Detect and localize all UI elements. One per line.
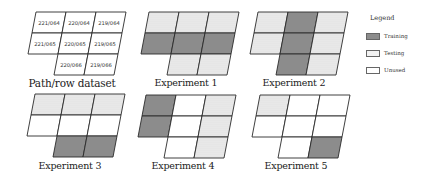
grid-cell-testing: [145, 12, 179, 33]
path-row-label: 221/065: [34, 41, 56, 47]
path-row-label: 220/066: [60, 62, 82, 68]
path-row-label: 221/064: [38, 20, 60, 26]
grid-cell-testing: [175, 12, 209, 33]
legend-label: Training: [384, 33, 408, 39]
unused-swatch-icon: [366, 67, 380, 74]
grid-diagram: [246, 12, 346, 82]
grid-cell-unused: [57, 115, 91, 136]
grid-cell-training: [201, 33, 235, 54]
grid-cell-training: [138, 116, 172, 137]
grid-cell-unused: [27, 115, 61, 136]
legend-label: Testing: [384, 50, 404, 56]
grid-cell-unused: [87, 115, 121, 136]
training-swatch-icon: [366, 33, 380, 40]
grid-diagram: [248, 95, 348, 165]
grid-cell-unused: [252, 116, 286, 137]
caption-path-row-dataset: Path/row dataset: [28, 77, 115, 89]
path-row-label: 219/064: [98, 20, 120, 26]
grid-cell-unused: [168, 116, 202, 137]
grid-diagram: [134, 95, 234, 165]
caption-experiment-1: Experiment 1: [155, 77, 218, 88]
grid-cell-training: [83, 136, 117, 157]
grid-cell-unused: [172, 95, 206, 116]
grid-cell-testing: [310, 33, 344, 54]
grid-cell-training: [280, 33, 314, 54]
testing-swatch-icon: [366, 50, 380, 57]
caption-experiment-5: Experiment 5: [265, 160, 328, 171]
grid-cell-unused: [286, 95, 320, 116]
grid-cell-training: [276, 54, 310, 75]
path-row-label: 220/065: [64, 41, 86, 47]
caption-experiment-4: Experiment 4: [152, 160, 215, 171]
legend-item-unused: Unused: [366, 67, 422, 75]
grid-cell-unused: [282, 116, 316, 137]
grid-cell-testing: [167, 54, 201, 75]
grid-diagram: [137, 12, 237, 82]
path-row-label: 220/064: [68, 20, 90, 26]
legend-item-testing: Testing: [366, 50, 422, 58]
grid-cell-training: [142, 95, 176, 116]
grid-cell-testing: [31, 94, 65, 115]
grid-cell-testing: [250, 33, 284, 54]
grid-cell-testing: [202, 95, 236, 116]
grid-cell-training: [308, 137, 342, 158]
path-row-label: 219/066: [90, 62, 112, 68]
grid-cell-unused: [316, 95, 350, 116]
grid-cell-testing: [194, 137, 228, 158]
path-row-label: 219/065: [94, 41, 116, 47]
grid-cell-testing: [256, 95, 290, 116]
grid-diagram: [23, 94, 123, 164]
grid-cell-training: [141, 33, 175, 54]
caption-experiment-3: Experiment 3: [39, 160, 102, 171]
grid-cell-testing: [254, 12, 288, 33]
grid-cell-testing: [91, 94, 125, 115]
legend-item-training: Training: [366, 33, 422, 41]
grid-cell-unused: [164, 137, 198, 158]
grid-cell-unused: [278, 137, 312, 158]
grid-cell-testing: [205, 12, 239, 33]
grid-diagram: 221/064220/064219/064221/065220/065219/0…: [24, 12, 124, 82]
caption-experiment-2: Experiment 2: [263, 77, 326, 88]
legend-label: Unused: [384, 67, 405, 73]
grid-cell-training: [53, 136, 87, 157]
grid-cell-unused: [312, 116, 346, 137]
grid-cell-testing: [197, 54, 231, 75]
grid-cell-training: [284, 12, 318, 33]
grid-cell-training: [171, 33, 205, 54]
legend-title: Legend: [370, 14, 395, 22]
grid-cell-testing: [61, 94, 95, 115]
grid-cell-testing: [306, 54, 340, 75]
grid-cell-testing: [314, 12, 348, 33]
grid-cell-testing: [198, 116, 232, 137]
